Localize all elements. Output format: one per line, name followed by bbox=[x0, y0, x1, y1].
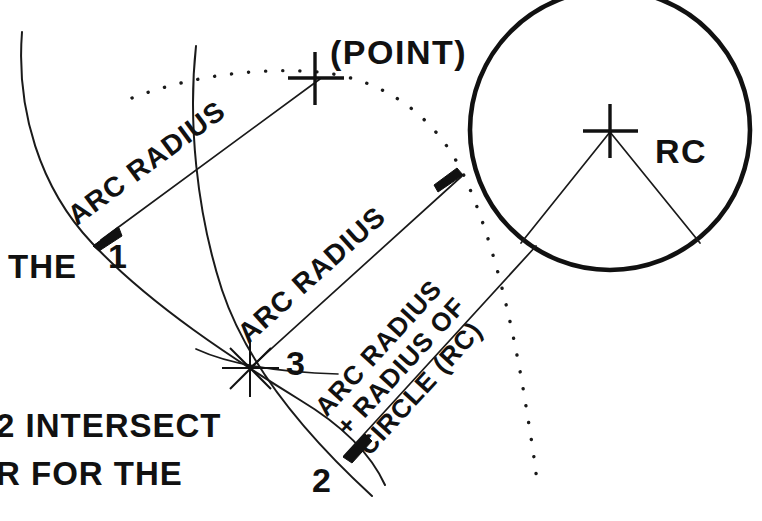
circle-center-cross-marker bbox=[583, 104, 638, 158]
point-1-label: 1 bbox=[108, 237, 127, 275]
point-label: (POINT) bbox=[330, 33, 467, 71]
point-3-label: 3 bbox=[286, 344, 305, 382]
arc-radius-label-middle: ARC RADIUS bbox=[232, 200, 392, 349]
intersection-star-marker-point-3 bbox=[222, 340, 279, 397]
diagram-canvas: (POINT) RC ARC RADIUS ARC RADIUS ARC RAD… bbox=[0, 0, 762, 521]
point-2-label: 2 bbox=[312, 461, 331, 499]
arc-radius-label-lower-group: ARC RADIUS + RADIUS OF CIRCLE (RC) bbox=[309, 271, 493, 461]
technical-drawing-svg: (POINT) RC ARC RADIUS ARC RADIUS ARC RAD… bbox=[0, 0, 762, 521]
rc-label: RC bbox=[655, 132, 707, 170]
radius-line-left bbox=[521, 132, 610, 243]
body-text-intersect: 2 INTERSECT bbox=[0, 407, 222, 444]
body-text-the: THE bbox=[8, 248, 77, 285]
body-text-for-the: R FOR THE bbox=[0, 455, 183, 492]
